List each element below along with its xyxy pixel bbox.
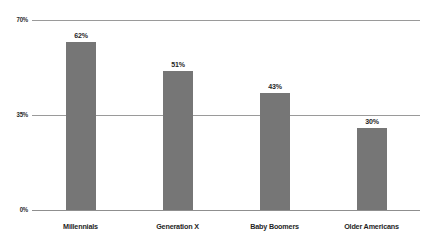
bar-baby-boomers[interactable] (260, 93, 290, 210)
x-axis-category-labels: Millennials Generation X Baby Boomers Ol… (32, 222, 420, 236)
bar-older-americans[interactable] (357, 128, 387, 210)
bar-value-older-americans: 30% (345, 117, 398, 126)
y-axis-tick-label-0: 0% (4, 206, 28, 214)
bar-slot-millennials: 62% (32, 20, 129, 210)
bar-slot-generation-x: 51% (129, 20, 226, 210)
bar-value-millennials: 62% (54, 31, 107, 40)
y-axis-tick-label-35: 35% (4, 111, 28, 119)
bar-slot-older-americans: 30% (323, 20, 420, 210)
x-axis-label-millennials: Millennials (37, 222, 124, 232)
bar-slot-baby-boomers: 43% (226, 20, 323, 210)
x-axis-label-baby-boomers: Baby Boomers (231, 222, 318, 232)
plot-area: 62% 51% 43% 30% (32, 20, 420, 210)
bar-generation-x[interactable] (163, 71, 193, 210)
gridline-0-baseline (32, 210, 420, 211)
bar-millennials[interactable] (66, 42, 96, 210)
bar-value-baby-boomers: 43% (248, 82, 301, 91)
x-axis-label-older-americans: Older Americans (328, 222, 415, 232)
bar-chart: 70% 35% 0% 62% 51% 43% 30% Millennials G… (0, 0, 440, 247)
x-axis-label-generation-x: Generation X (134, 222, 221, 232)
bar-value-generation-x: 51% (151, 60, 204, 69)
y-axis-tick-label-70: 70% (4, 16, 28, 24)
